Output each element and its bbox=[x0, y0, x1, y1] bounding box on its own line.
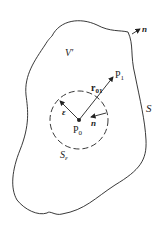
r01-vector-arrow bbox=[79, 77, 113, 120]
outer-surface-boundary bbox=[13, 21, 146, 215]
surface-label: S bbox=[146, 102, 152, 114]
p0-label: P0 bbox=[73, 124, 83, 137]
outer-normal-label: n bbox=[142, 24, 147, 34]
small-surface-label: Sε bbox=[60, 149, 68, 162]
green-theorem-diagram: n V′ S ε r01 P1 n P0 Sε bbox=[0, 0, 164, 235]
r01-label: r01 bbox=[91, 82, 103, 95]
inner-normal-label: n bbox=[91, 118, 96, 128]
p0-point bbox=[77, 118, 81, 122]
outer-normal-arrow bbox=[132, 29, 140, 34]
volume-label: V′ bbox=[65, 47, 74, 58]
inner-normal-arrow bbox=[91, 113, 106, 117]
p1-label: P1 bbox=[115, 69, 125, 82]
epsilon-label: ε bbox=[62, 107, 66, 117]
